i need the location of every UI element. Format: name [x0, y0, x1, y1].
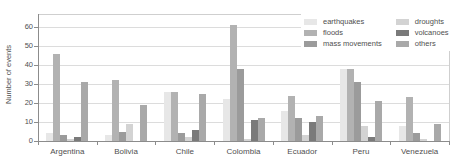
x-tick-6	[390, 142, 391, 145]
y-tick-label-40: 40	[3, 61, 33, 69]
bar-chart-figure: Number of events 0102030405060ArgentinaB…	[0, 0, 457, 165]
bar-floods-venezuela	[406, 97, 413, 141]
x-category-label-ecuador: Ecuador	[273, 147, 332, 156]
x-category-label-argentina: Argentina	[38, 147, 97, 156]
x-tick-0	[38, 142, 39, 145]
bar-droughts-peru	[361, 126, 368, 141]
bar-others-peru	[375, 101, 382, 141]
bar-mass-movements-bolivia	[119, 132, 126, 141]
legend-item-earthquakes: earthquakes	[304, 16, 382, 27]
bar-mass-movements-peru	[354, 82, 361, 141]
legend: earthquakesfloodsmass movementsdroughtsv…	[301, 14, 452, 51]
bar-mass-movements-colombia	[237, 69, 244, 141]
x-category-label-colombia: Colombia	[214, 147, 273, 156]
legend-column-2: droughtsvolcanoesothers	[396, 16, 449, 49]
legend-swatch-droughts	[396, 19, 409, 25]
bar-mass-movements-venezuela	[413, 133, 420, 141]
bar-others-venezuela	[434, 124, 441, 141]
legend-swatch-mass-movements	[304, 41, 317, 47]
legend-swatch-earthquakes	[304, 19, 317, 25]
legend-item-mass-movements: mass movements	[304, 38, 382, 49]
legend-label-droughts: droughts	[415, 17, 444, 26]
x-category-label-peru: Peru	[332, 147, 391, 156]
y-axis-title: Number of events	[4, 20, 13, 130]
y-tick-label-10: 10	[3, 118, 33, 126]
bar-floods-chile	[171, 92, 178, 141]
bar-floods-peru	[347, 69, 354, 141]
legend-column-1: earthquakesfloodsmass movements	[304, 16, 382, 49]
bar-floods-colombia	[230, 25, 237, 141]
y-tick-20	[34, 103, 38, 104]
bar-others-ecuador	[316, 116, 323, 141]
legend-swatch-volcanoes	[396, 30, 409, 36]
legend-swatch-others	[396, 41, 409, 47]
y-tick-60	[34, 27, 38, 28]
bar-group-colombia	[214, 14, 273, 141]
bar-group-chile	[155, 14, 214, 141]
bar-volcanoes-ecuador	[309, 122, 316, 141]
legend-item-volcanoes: volcanoes	[396, 27, 449, 38]
bar-earthquakes-argentina	[46, 133, 53, 141]
y-tick-label-30: 30	[3, 80, 33, 88]
legend-label-others: others	[415, 39, 436, 48]
y-tick-30	[34, 84, 38, 85]
y-tick-40	[34, 65, 38, 66]
x-tick-3	[214, 142, 215, 145]
y-axis-line	[38, 14, 39, 142]
y-tick-label-60: 60	[3, 23, 33, 31]
legend-item-floods: floods	[304, 27, 382, 38]
x-tick-2	[155, 142, 156, 145]
bar-floods-argentina	[53, 54, 60, 141]
x-tick-4	[273, 142, 274, 145]
bar-volcanoes-colombia	[251, 120, 258, 141]
bar-group-argentina	[38, 14, 97, 141]
legend-label-earthquakes: earthquakes	[323, 17, 364, 26]
bar-volcanoes-chile	[192, 130, 199, 141]
bar-earthquakes-peru	[340, 69, 347, 141]
bar-droughts-bolivia	[126, 124, 133, 141]
bar-others-argentina	[81, 82, 88, 141]
legend-label-floods: floods	[323, 28, 343, 37]
legend-label-volcanoes: volcanoes	[415, 28, 449, 37]
legend-swatch-floods	[304, 30, 317, 36]
bar-floods-bolivia	[112, 80, 119, 141]
bar-mass-movements-chile	[178, 133, 185, 141]
x-category-label-bolivia: Bolivia	[97, 147, 156, 156]
x-category-label-chile: Chile	[155, 147, 214, 156]
y-tick-10	[34, 122, 38, 123]
y-tick-label-20: 20	[3, 99, 33, 107]
bar-mass-movements-ecuador	[295, 118, 302, 141]
x-tick-1	[97, 142, 98, 145]
bar-group-bolivia	[97, 14, 156, 141]
bar-earthquakes-venezuela	[399, 126, 406, 141]
y-tick-label-0: 0	[3, 137, 33, 145]
x-tick-7	[449, 142, 450, 145]
y-tick-label-50: 50	[3, 42, 33, 50]
bar-earthquakes-ecuador	[281, 111, 288, 141]
bar-earthquakes-chile	[164, 92, 171, 141]
legend-label-mass-movements: mass movements	[323, 39, 382, 48]
bar-others-bolivia	[140, 105, 147, 141]
bar-floods-ecuador	[288, 96, 295, 141]
x-category-label-venezuela: Venezuela	[390, 147, 449, 156]
bar-others-colombia	[258, 118, 265, 141]
legend-item-droughts: droughts	[396, 16, 449, 27]
bar-earthquakes-colombia	[223, 99, 230, 141]
bar-others-chile	[199, 94, 206, 141]
x-tick-5	[332, 142, 333, 145]
y-tick-50	[34, 46, 38, 47]
legend-item-others: others	[396, 38, 449, 49]
